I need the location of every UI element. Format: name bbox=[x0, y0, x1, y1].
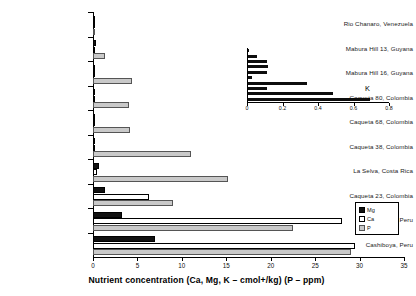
x-tick bbox=[182, 257, 183, 261]
y-tick bbox=[88, 208, 93, 209]
bar-ca bbox=[93, 96, 95, 102]
bar-mg bbox=[93, 40, 96, 46]
bar-ca bbox=[93, 71, 95, 77]
legend-swatch-ca-icon bbox=[359, 216, 365, 222]
inset-x-tick-label: 0.6 bbox=[345, 105, 363, 111]
y-tick bbox=[88, 233, 93, 234]
x-tick-label: 35 bbox=[392, 262, 416, 269]
x-tick bbox=[360, 257, 361, 261]
x-tick-label: 0 bbox=[81, 262, 105, 269]
x-tick-label: 20 bbox=[259, 262, 283, 269]
legend-swatch-mg-icon bbox=[359, 207, 365, 213]
x-tick bbox=[137, 257, 138, 261]
x-tick bbox=[271, 257, 272, 261]
x-tick bbox=[404, 257, 405, 261]
bar-ca bbox=[93, 145, 95, 151]
legend-item-mg: Mg bbox=[359, 205, 395, 214]
bar-p bbox=[93, 151, 191, 157]
inset-bar-k bbox=[248, 55, 257, 58]
inset-title: K bbox=[365, 84, 370, 93]
bar-p bbox=[93, 102, 129, 108]
bar-mg bbox=[93, 65, 95, 71]
bar-p bbox=[93, 225, 293, 231]
x-tick bbox=[226, 257, 227, 261]
bar-ca bbox=[93, 47, 95, 53]
legend-item-p: P bbox=[359, 223, 395, 232]
bar-p bbox=[93, 249, 351, 255]
legend-swatch-p-icon bbox=[359, 225, 365, 231]
y-tick bbox=[88, 184, 93, 185]
category-label: Caqueta 38, Colombia bbox=[325, 143, 413, 150]
inset-bar-k bbox=[248, 82, 307, 85]
y-tick bbox=[88, 110, 93, 111]
x-tick-label: 5 bbox=[125, 262, 149, 269]
bar-ca bbox=[93, 22, 95, 28]
inset-bar-k bbox=[248, 65, 268, 68]
x-tick-label: 25 bbox=[303, 262, 327, 269]
x-tick-label: 15 bbox=[214, 262, 238, 269]
legend-item-ca: Ca bbox=[359, 214, 395, 223]
inset-bar-k bbox=[248, 49, 249, 52]
inset-bar-k bbox=[248, 76, 252, 79]
inset-bar-k bbox=[248, 98, 370, 101]
bar-ca bbox=[93, 120, 95, 126]
bar-ca bbox=[93, 169, 97, 175]
x-axis-line bbox=[93, 257, 404, 258]
bar-mg bbox=[93, 138, 95, 144]
x-tick bbox=[315, 257, 316, 261]
bar-p bbox=[93, 127, 130, 133]
bar-ca bbox=[93, 194, 149, 200]
bar-mg bbox=[93, 187, 105, 193]
category-label: La Selva, Costa Rica bbox=[325, 167, 413, 174]
y-tick bbox=[88, 61, 93, 62]
bar-mg bbox=[93, 163, 99, 169]
y-tick bbox=[88, 37, 93, 38]
legend: Mg Ca P bbox=[355, 202, 399, 235]
inset-x-tick-label: 0.2 bbox=[274, 105, 292, 111]
bar-p bbox=[93, 176, 228, 182]
legend-label-p: P bbox=[367, 225, 371, 231]
bar-mg bbox=[93, 236, 155, 242]
inset-x-tick-label: 0 bbox=[238, 105, 256, 111]
bar-ca bbox=[93, 218, 342, 224]
legend-label-mg: Mg bbox=[367, 207, 375, 213]
x-axis-title: Nutrient concentration (Ca, Mg, K – cmol… bbox=[0, 275, 413, 285]
inset-bar-k bbox=[248, 60, 267, 63]
inset-bar-k bbox=[248, 87, 267, 90]
category-label: Rio Chanaro, Venezuela bbox=[325, 20, 413, 27]
y-tick bbox=[88, 86, 93, 87]
bar-mg bbox=[93, 89, 95, 95]
inset-x-tick-label: 0.8 bbox=[380, 105, 398, 111]
bar-p bbox=[93, 53, 105, 59]
inset-bar-k bbox=[248, 92, 333, 95]
x-tick bbox=[93, 257, 94, 261]
y-tick bbox=[88, 135, 93, 136]
y-tick bbox=[88, 159, 93, 160]
bar-ca bbox=[93, 243, 355, 249]
inset-potassium-chart: 00.20.40.60.8 K bbox=[247, 48, 397, 110]
bar-mg bbox=[93, 16, 95, 22]
bar-p bbox=[93, 78, 132, 84]
legend-label-ca: Ca bbox=[367, 216, 374, 222]
x-tick-label: 10 bbox=[170, 262, 194, 269]
inset-x-tick-label: 0.4 bbox=[309, 105, 327, 111]
bar-p bbox=[93, 29, 95, 35]
inset-bar-k bbox=[248, 71, 267, 74]
category-label: Caqueta 68, Colombia bbox=[325, 118, 413, 125]
bar-mg bbox=[93, 212, 122, 218]
x-tick-label: 30 bbox=[348, 262, 372, 269]
bar-p bbox=[93, 200, 173, 206]
y-tick bbox=[88, 12, 93, 13]
bar-mg bbox=[93, 114, 95, 120]
category-label: Caqueta 23, Colombia bbox=[325, 192, 413, 199]
